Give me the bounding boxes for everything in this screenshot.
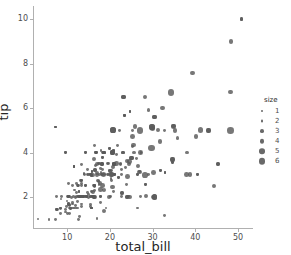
data-point [136, 207, 139, 210]
y-tick-mark [30, 64, 33, 65]
data-point [84, 184, 87, 187]
y-tick-label: 8 [23, 60, 28, 68]
data-point [132, 151, 136, 155]
legend-item[interactable]: 1 [258, 106, 291, 116]
data-point [156, 128, 160, 132]
x-tick-mark [238, 229, 239, 232]
y-tick-mark [30, 197, 33, 198]
x-axis-spine [33, 228, 253, 229]
data-point [149, 124, 155, 130]
data-point [163, 214, 166, 217]
data-point [110, 150, 115, 155]
data-point [48, 218, 51, 221]
data-point [118, 129, 121, 132]
data-point [83, 173, 86, 176]
data-point [96, 217, 99, 220]
data-point [164, 171, 167, 174]
data-point [78, 190, 81, 193]
data-point [86, 168, 89, 171]
data-point [120, 173, 123, 176]
legend-item[interactable]: 5 [258, 146, 291, 156]
y-tick-mark [30, 153, 33, 154]
data-point [152, 194, 158, 200]
data-point [212, 184, 216, 188]
legend-item[interactable]: 2 [258, 116, 291, 126]
data-point [107, 162, 110, 165]
data-point [188, 172, 193, 177]
data-point [151, 170, 156, 175]
data-point [124, 166, 127, 169]
data-point [73, 207, 76, 210]
data-point [108, 147, 111, 150]
data-point [78, 215, 81, 218]
y-tick-mark [30, 19, 33, 20]
legend-label: 3 [275, 127, 279, 135]
data-point [94, 151, 97, 154]
y-tick-mark [30, 108, 33, 109]
data-point [100, 162, 104, 166]
data-point [206, 128, 211, 133]
data-point [76, 207, 79, 210]
data-point [66, 212, 69, 215]
data-point [190, 71, 195, 76]
x-tick-mark [67, 229, 68, 232]
data-point [116, 144, 119, 147]
data-point [120, 168, 123, 171]
data-point [144, 183, 147, 186]
data-point [135, 157, 138, 160]
data-point [171, 124, 176, 129]
legend-label: 4 [275, 137, 279, 145]
y-axis-label: tip [0, 92, 11, 132]
data-point [67, 182, 70, 185]
data-point [54, 126, 57, 129]
data-point [137, 127, 144, 134]
data-point [101, 156, 104, 159]
data-point [54, 218, 57, 221]
data-point [240, 17, 244, 21]
data-point [77, 218, 80, 221]
data-point [64, 151, 67, 154]
data-point [130, 134, 135, 139]
y-tick-label: 6 [23, 104, 28, 112]
data-point [121, 95, 126, 100]
y-tick-label: 4 [23, 149, 28, 157]
data-point [77, 184, 80, 187]
data-point [131, 129, 134, 132]
data-point [120, 191, 124, 195]
data-point [109, 172, 114, 177]
data-point [131, 145, 134, 148]
legend-label: 2 [275, 117, 279, 125]
legend-item[interactable]: 6 [258, 156, 291, 166]
data-point [194, 134, 199, 139]
legend-label: 1 [275, 107, 279, 115]
data-point [127, 195, 132, 200]
data-point [216, 162, 220, 166]
scatter-plot-figure: 246810 1020304050 tip total_bill size 12… [0, 0, 291, 255]
x-axis-label: total_bill [33, 240, 253, 254]
data-point [80, 163, 83, 166]
data-point [129, 156, 134, 161]
data-point [80, 205, 83, 208]
legend-marker-icon [261, 120, 264, 123]
data-point [99, 201, 102, 204]
data-point [168, 89, 175, 96]
y-tick-label: 2 [23, 193, 28, 201]
data-point [112, 162, 116, 166]
data-point [110, 127, 116, 133]
legend-item[interactable]: 3 [258, 126, 291, 136]
data-point [185, 151, 189, 155]
legend-item[interactable]: 4 [258, 136, 291, 146]
data-point [176, 136, 180, 140]
data-point [60, 198, 62, 200]
data-point [152, 115, 157, 120]
data-point [90, 207, 93, 210]
data-point [120, 195, 123, 198]
data-point [147, 108, 151, 112]
legend-label: 5 [275, 147, 279, 155]
legend-marker-icon [260, 129, 264, 133]
data-point [76, 200, 79, 203]
data-point [158, 139, 163, 144]
data-point [102, 209, 106, 213]
data-point [198, 127, 204, 133]
data-point [69, 207, 72, 210]
